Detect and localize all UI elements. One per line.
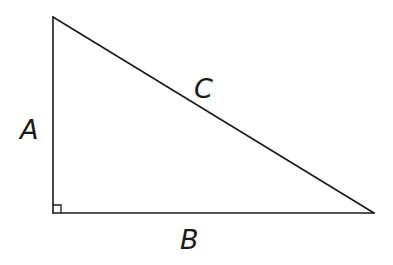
side-c-hypotenuse <box>53 17 374 213</box>
right-triangle-diagram: A B C <box>0 0 393 265</box>
right-angle-marker <box>53 205 61 213</box>
label-side-a: A <box>18 114 38 145</box>
label-side-b: B <box>180 224 199 255</box>
label-side-c: C <box>194 73 213 104</box>
